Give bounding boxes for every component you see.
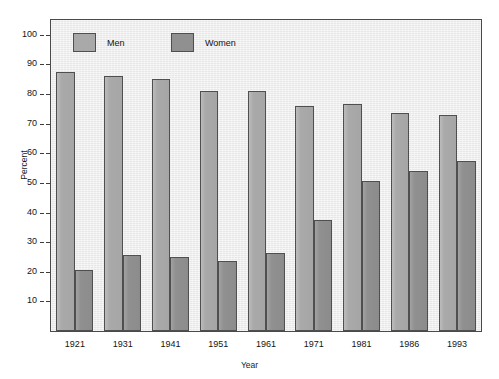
bar-men-1921[interactable] xyxy=(56,72,75,331)
legend-swatch-women-icon xyxy=(171,33,194,52)
bar-men-1931[interactable] xyxy=(104,76,123,331)
y-tick-mark-outer xyxy=(40,153,44,154)
y-axis-tick: 10 xyxy=(0,301,52,302)
bar-women-1993[interactable] xyxy=(457,161,476,331)
legend-entry-women[interactable]: Women xyxy=(171,33,236,52)
x-tick-label-1941: 1941 xyxy=(160,339,180,349)
x-tick-label-1986: 1986 xyxy=(399,339,419,349)
y-tick-label: 90 xyxy=(27,58,37,68)
x-tick-label-1971: 1971 xyxy=(304,339,324,349)
y-tick-label: 10 xyxy=(27,295,37,305)
y-axis-tick: 40 xyxy=(0,213,52,214)
bar-women-1941[interactable] xyxy=(170,257,189,331)
y-axis-tick: 80 xyxy=(0,94,52,95)
bar-men-1986[interactable] xyxy=(391,113,410,331)
bar-women-1971[interactable] xyxy=(314,220,333,331)
y-tick-mark-outer xyxy=(40,35,44,36)
y-tick-mark-outer xyxy=(40,213,44,214)
x-axis-title: Year xyxy=(0,360,499,370)
bar-men-1951[interactable] xyxy=(200,91,219,331)
y-axis-tick: 50 xyxy=(0,183,52,184)
y-tick-label: 100 xyxy=(22,29,37,39)
x-tick-label-1993: 1993 xyxy=(447,339,467,349)
bar-men-1993[interactable] xyxy=(439,115,458,331)
x-tick-label-1931: 1931 xyxy=(113,339,133,349)
y-tick-mark-outer xyxy=(40,242,44,243)
x-tick-label-1921: 1921 xyxy=(65,339,85,349)
bar-women-1961[interactable] xyxy=(266,253,285,331)
y-axis-tick: 20 xyxy=(0,272,52,273)
x-tick-label-1951: 1951 xyxy=(208,339,228,349)
y-tick-label: 80 xyxy=(27,88,37,98)
y-tick-label: 20 xyxy=(27,266,37,276)
bar-men-1941[interactable] xyxy=(152,79,171,331)
plot-area: Men Women xyxy=(50,19,482,332)
legend-swatch-men-icon xyxy=(73,33,96,52)
bar-men-1981[interactable] xyxy=(343,104,362,331)
y-tick-mark-outer xyxy=(40,94,44,95)
y-tick-mark-outer xyxy=(40,301,44,302)
chart-figure: . Percent 102030405060708090100 Men Wome… xyxy=(0,0,499,379)
bar-women-1931[interactable] xyxy=(123,255,142,331)
bar-men-1971[interactable] xyxy=(295,106,314,331)
y-tick-mark-outer xyxy=(40,124,44,125)
y-tick-label: 50 xyxy=(27,177,37,187)
y-tick-mark-outer xyxy=(40,64,44,65)
bar-women-1986[interactable] xyxy=(409,171,428,331)
y-tick-label: 40 xyxy=(27,207,37,217)
bar-men-1961[interactable] xyxy=(248,91,267,331)
bar-women-1981[interactable] xyxy=(362,181,381,331)
legend-entry-men[interactable]: Men xyxy=(73,33,125,52)
legend-label-men: Men xyxy=(107,38,125,48)
cropped-text-artifact: . xyxy=(0,0,499,12)
y-axis-tick: 30 xyxy=(0,242,52,243)
y-tick-label: 70 xyxy=(27,118,37,128)
legend-label-women: Women xyxy=(205,38,236,48)
y-axis-tick: 90 xyxy=(0,64,52,65)
x-tick-label-1961: 1961 xyxy=(256,339,276,349)
x-tick-label-1981: 1981 xyxy=(352,339,372,349)
y-tick-label: 30 xyxy=(27,236,37,246)
y-tick-mark-outer xyxy=(40,183,44,184)
y-axis-tick: 70 xyxy=(0,124,52,125)
y-axis-tick: 60 xyxy=(0,153,52,154)
bar-women-1951[interactable] xyxy=(218,261,237,331)
y-tick-mark-outer xyxy=(40,272,44,273)
y-tick-label: 60 xyxy=(27,147,37,157)
cropped-text-artifact-label: . xyxy=(18,0,21,2)
y-axis-tick: 100 xyxy=(0,35,52,36)
bar-women-1921[interactable] xyxy=(75,270,94,331)
